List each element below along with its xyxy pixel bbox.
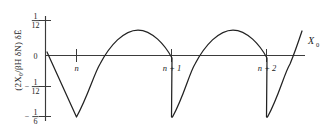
y-tick-top-numerator: 1 (34, 12, 38, 21)
figure-container: 1 12 0 − 1 12 − 1 6 n n + 1 n + 2 X 0 (0, 0, 327, 132)
y-tick-neg-sixth-denominator: 6 (34, 117, 38, 126)
y-tick-label-neg-sixth: − 1 6 (25, 108, 39, 126)
y-tick-neg-twelfth-numerator: 1 (34, 78, 38, 87)
x-label-n-plus-1: n + 1 (163, 63, 182, 73)
x-label-n-plus-2: n + 2 (258, 63, 277, 73)
x-axis-title-subscript: 0 (316, 41, 319, 48)
y-tick-top-denominator: 12 (32, 21, 40, 30)
y-tick-label-neg-twelfth: − 1 12 (25, 78, 40, 96)
x-label-n: n (74, 63, 78, 73)
x-axis-title: X 0 (307, 35, 319, 48)
y-tick-neg-sixth-sign: − (25, 112, 30, 121)
y-axis-title-text: (2X₀/βH δN) δĒ (13, 29, 23, 91)
y-tick-neg-sixth-numerator: 1 (34, 108, 38, 117)
x-axis-title-letter: X (307, 35, 315, 46)
y-tick-label-top: 1 12 (32, 12, 40, 30)
y-axis-title: (2X₀/βH δN) δĒ (10, 13, 26, 107)
y-tick-neg-twelfth-denominator: 12 (32, 87, 40, 96)
y-tick-label-zero: 0 (34, 52, 38, 61)
plot-svg: 1 12 0 − 1 12 − 1 6 n n + 1 n + 2 X 0 (0, 0, 327, 132)
data-curve (47, 30, 302, 117)
